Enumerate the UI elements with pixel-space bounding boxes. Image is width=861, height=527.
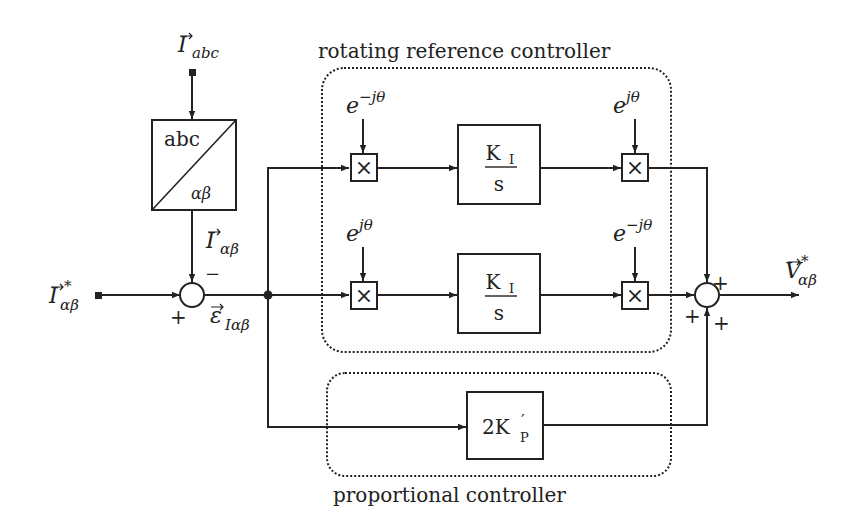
svg-text:2K: 2K xyxy=(482,415,511,439)
svg-text:αβ: αβ xyxy=(60,296,79,314)
input-i-ref-label: I * αβ xyxy=(48,277,79,314)
svg-text:′: ′ xyxy=(521,411,525,430)
branch-to-top-row-wire xyxy=(268,168,349,295)
top-input-phasor-label: e −jθ xyxy=(346,88,385,118)
svg-text:*: * xyxy=(801,252,809,270)
rotating-controller-label: rotating reference controller xyxy=(318,39,611,63)
svg-text:αβ: αβ xyxy=(191,184,211,203)
summer-right-left-plus: + xyxy=(684,304,701,328)
input-i-abc-terminal xyxy=(189,69,196,76)
input-i-abc-label: I abc xyxy=(177,32,220,62)
svg-text:abc: abc xyxy=(192,44,220,62)
svg-text:I: I xyxy=(509,152,514,167)
middle-row: e jθ × K I s e −jθ × xyxy=(346,216,694,333)
summer-left-plus-sign: + xyxy=(170,305,187,329)
svg-text:e: e xyxy=(346,93,359,118)
middle-output-phasor-label: e −jθ xyxy=(613,216,652,246)
svg-text:αβ: αβ xyxy=(220,240,239,258)
svg-text:s: s xyxy=(494,301,504,325)
abc-to-alphabeta-transform-block: abc αβ xyxy=(152,120,236,210)
middle-integrator-block: K I s xyxy=(458,254,540,333)
svg-text:abc: abc xyxy=(164,127,200,151)
svg-text:×: × xyxy=(626,155,644,180)
proportional-output-wire xyxy=(543,308,707,425)
error-signal-label: ε Iαβ xyxy=(210,303,250,334)
input-i-ref-terminal xyxy=(95,292,102,299)
svg-text:I: I xyxy=(509,281,514,296)
summer-right-bottom-plus: + xyxy=(713,311,730,335)
svg-text:×: × xyxy=(355,155,373,180)
middle-input-phasor-label: e jθ xyxy=(346,216,373,246)
top-output-phasor-label: e jθ xyxy=(613,88,640,118)
proportional-gain-block: 2K ′ P xyxy=(467,392,543,459)
summer-left-minus-sign: − xyxy=(205,263,220,284)
svg-text:Iαβ: Iαβ xyxy=(224,316,250,334)
svg-text:*: * xyxy=(64,277,72,295)
block-diagram: rotating reference controller proportion… xyxy=(0,0,861,527)
svg-text:jθ: jθ xyxy=(623,88,640,106)
feedback-signal-label: I αβ xyxy=(205,228,239,258)
output-v-ref-label: V * αβ xyxy=(785,252,817,289)
top-row: e −jθ × K I s e jθ × xyxy=(346,88,707,282)
summer-right-top-plus: + xyxy=(712,271,729,295)
svg-text:s: s xyxy=(494,172,504,196)
summing-junction-left xyxy=(180,283,204,307)
svg-text:−jθ: −jθ xyxy=(626,216,652,234)
svg-text:−jθ: −jθ xyxy=(359,88,385,106)
svg-text:K: K xyxy=(486,141,502,165)
svg-text:e: e xyxy=(346,221,359,246)
svg-text:×: × xyxy=(355,283,373,308)
svg-text:e: e xyxy=(613,93,626,118)
svg-text:e: e xyxy=(613,221,626,246)
svg-text:jθ: jθ xyxy=(356,216,373,234)
svg-text:P: P xyxy=(520,430,529,445)
proportional-controller-label: proportional controller xyxy=(333,483,566,507)
svg-text:αβ: αβ xyxy=(798,271,817,289)
branch-to-proportional-wire xyxy=(268,295,466,427)
top-integrator-block: K I s xyxy=(458,125,540,204)
svg-text:×: × xyxy=(626,283,644,308)
svg-text:K: K xyxy=(486,270,502,294)
